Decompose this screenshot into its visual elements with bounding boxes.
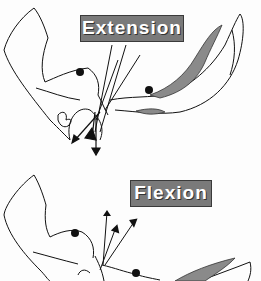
flexion-arrows [103,210,140,233]
extension-arrows [72,112,100,155]
extension-label: Extension [80,15,184,42]
landmark-dot [132,269,140,277]
landmark-dot [76,68,84,76]
landmark-dot [71,229,79,237]
shaded-cartilage-2 [136,109,165,114]
shaded-cartilage-3 [175,258,235,281]
landmark-dot [145,86,153,94]
flexion-label: Flexion [130,180,212,207]
diagram-canvas: Extension Flexion [0,0,261,281]
pelvis-diagram [0,0,261,281]
